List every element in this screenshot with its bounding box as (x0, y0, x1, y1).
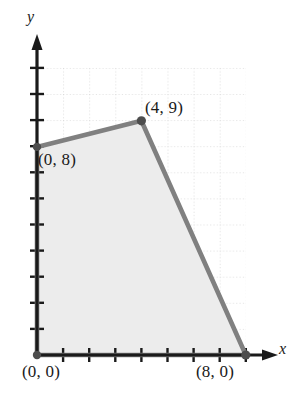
vertex-dot-0-0 (33, 351, 41, 359)
figure-canvas: y x (0, 0) (8, 0) (0, 8) (4, 9) (0, 0, 287, 395)
y-axis-label: y (27, 8, 34, 26)
point-label-y-intercept: (0, 8) (38, 150, 76, 170)
y-axis-arrowhead (32, 34, 43, 50)
vertex-dot-8-0 (241, 350, 250, 359)
x-axis-arrowhead (262, 350, 278, 361)
x-axis-label: x (279, 340, 286, 358)
point-label-apex: (4, 9) (145, 98, 183, 118)
plot-svg (0, 0, 287, 395)
point-label-x-intercept: (8, 0) (196, 362, 234, 382)
point-label-origin: (0, 0) (22, 362, 60, 382)
